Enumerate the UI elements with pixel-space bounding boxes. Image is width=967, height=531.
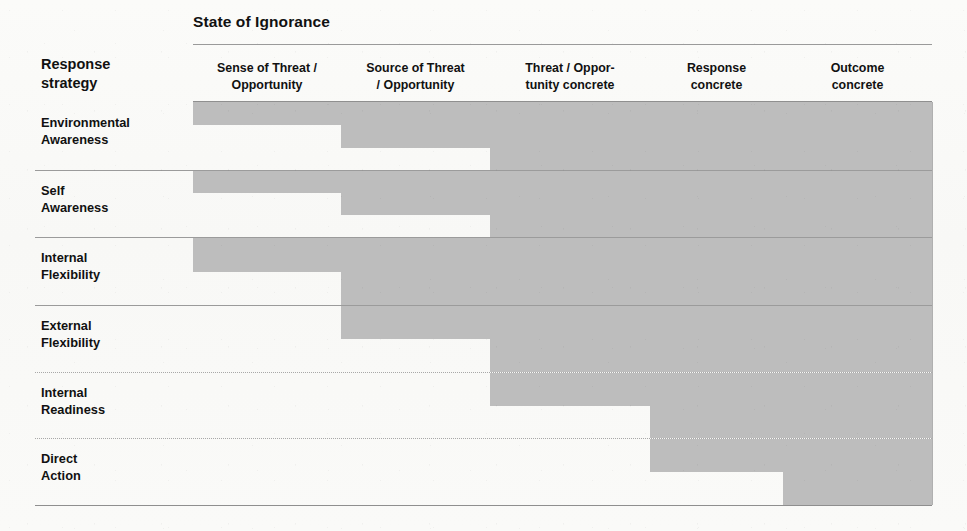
row-rule-3 xyxy=(35,305,932,306)
band-environmental-awareness-1 xyxy=(193,102,932,125)
band-self-awareness-1 xyxy=(193,171,932,193)
column-header-threat-opportunity-concrete: Threat / Oppor- tunity concrete xyxy=(490,60,650,94)
corner-header-response-strategy: Response strategy xyxy=(41,55,110,93)
band-environmental-awareness-2 xyxy=(341,125,932,148)
band-internal-flexibility-1 xyxy=(193,238,932,272)
band-internal-readiness-1 xyxy=(490,373,932,406)
band-external-flexibility-1 xyxy=(341,306,932,339)
band-internal-readiness-2 xyxy=(650,406,932,438)
band-direct-action-1 xyxy=(650,439,932,472)
group-header-rule xyxy=(193,44,932,45)
row-label-direct-action: Direct Action xyxy=(41,450,81,484)
row-rule-4 xyxy=(35,372,932,373)
row-rule-5 xyxy=(35,438,932,439)
row-label-environmental-awareness: Environmental Awareness xyxy=(41,114,130,148)
band-internal-flexibility-2 xyxy=(341,272,932,305)
group-header-state-of-ignorance: State of Ignorance xyxy=(193,13,330,31)
row-label-self-awareness: Self Awareness xyxy=(41,182,108,216)
matrix-bottom-rule xyxy=(35,505,932,506)
matrix-right-edge xyxy=(932,102,933,505)
band-direct-action-2 xyxy=(783,472,932,505)
column-header-source-of-threat-opportunity: Source of Threat / Opportunity xyxy=(341,60,490,94)
row-label-external-flexibility: External Flexibility xyxy=(41,317,100,351)
row-rule-1 xyxy=(35,170,932,171)
row-label-internal-readiness: Internal Readiness xyxy=(41,384,105,418)
band-self-awareness-2 xyxy=(341,193,932,215)
band-self-awareness-3 xyxy=(490,215,932,237)
column-header-sense-of-threat-opportunity: Sense of Threat / Opportunity xyxy=(193,60,341,94)
row-label-internal-flexibility: Internal Flexibility xyxy=(41,249,100,283)
band-external-flexibility-2 xyxy=(490,339,932,372)
column-header-outcome-concrete: Outcome concrete xyxy=(783,60,932,94)
column-header-response-concrete: Response concrete xyxy=(650,60,783,94)
response-strategy-matrix: State of Ignorance Response strategy Sen… xyxy=(0,0,967,531)
band-environmental-awareness-3 xyxy=(490,148,932,170)
row-rule-2 xyxy=(35,237,932,238)
